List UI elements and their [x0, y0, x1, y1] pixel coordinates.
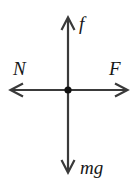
force-label-up: f	[79, 14, 84, 33]
force-label-right: F	[109, 59, 121, 78]
origin-point-dot	[64, 86, 71, 93]
force-vector-canvas	[0, 0, 134, 186]
free-body-diagram: f N F mg	[0, 0, 134, 186]
force-label-down: mg	[80, 158, 103, 177]
force-label-left: N	[13, 59, 26, 78]
